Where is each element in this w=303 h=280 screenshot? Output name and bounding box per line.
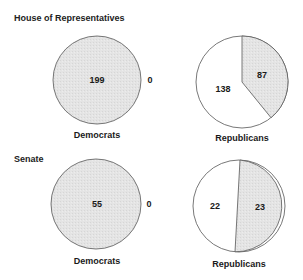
- house-rep-label: Republicans: [215, 133, 269, 143]
- house-rep-shaded-value: 87: [257, 70, 267, 80]
- senate-democrats-pie: 55 0 Democrats: [51, 159, 152, 266]
- senate-republicans-pie: 23 22 Republicans: [193, 160, 285, 269]
- house-rep-unshaded-value: 138: [215, 84, 230, 94]
- senate-dem-shaded-value: 55: [92, 199, 102, 209]
- house-dem-unshaded-value: 0: [147, 75, 152, 85]
- house-democrats-pie: 199 0 Democrats: [53, 36, 153, 140]
- senate-rep-unshaded-value: 22: [210, 201, 220, 211]
- senate-rep-shaded-value: 23: [255, 202, 265, 212]
- senate-section-title: Senate: [14, 154, 44, 164]
- senate-dem-unshaded-value: 0: [146, 199, 151, 209]
- house-dem-shaded-value: 199: [89, 75, 104, 85]
- house-section-title: House of Representatives: [14, 13, 125, 23]
- senate-rep-label: Republicans: [212, 259, 266, 269]
- house-republicans-pie: 87 138 Republicans: [196, 36, 288, 143]
- senate-dem-label: Democrats: [74, 256, 121, 266]
- house-dem-label: Democrats: [74, 130, 121, 140]
- pie-chart-figure: House of Representatives 199 0 Democrats…: [0, 0, 303, 280]
